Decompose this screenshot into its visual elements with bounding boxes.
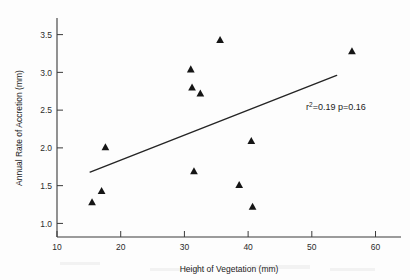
regression-line [90, 75, 337, 172]
data-points [88, 36, 356, 210]
data-point-marker [216, 36, 224, 43]
data-point-marker [187, 65, 195, 72]
scatter-plot-figure: 1.01.52.02.53.03.5 102030405060 r2=0.19 … [0, 0, 410, 280]
x-tick-label: 60 [371, 242, 381, 252]
data-point-marker [247, 137, 255, 144]
y-tick-label: 1.5 [40, 181, 52, 191]
y-tick-label: 2.5 [40, 105, 52, 115]
y-tick-label: 3.5 [40, 30, 52, 40]
axes [57, 18, 401, 237]
y-tick-label: 1.0 [40, 219, 52, 229]
y-tick-label: 2.0 [40, 143, 52, 153]
stats-annotation: r2=0.19 p=0.16 [306, 101, 366, 112]
data-point-marker [348, 47, 356, 54]
data-point-marker [98, 187, 106, 194]
regression-line-segment [90, 75, 337, 172]
data-point-marker [190, 167, 198, 174]
x-axis-ticks: 102030405060 [52, 231, 380, 252]
data-point-marker [188, 83, 196, 90]
y-axis-ticks: 1.01.52.02.53.03.5 [40, 30, 63, 229]
data-point-marker [102, 143, 110, 150]
x-axis-title: Height of Vegetation (mm) [180, 264, 279, 274]
x-tick-label: 10 [52, 242, 62, 252]
data-point-marker [88, 198, 96, 205]
x-tick-label: 40 [243, 242, 253, 252]
data-point-marker [235, 181, 243, 188]
x-tick-label: 30 [180, 242, 190, 252]
y-tick-label: 3.0 [40, 68, 52, 78]
data-point-marker [196, 90, 204, 97]
x-tick-label: 20 [116, 242, 126, 252]
data-point-marker [249, 203, 257, 210]
x-tick-label: 50 [307, 242, 317, 252]
y-axis-title: Annual Rate of Accretion (mm) [14, 70, 24, 186]
plot-canvas: 1.01.52.02.53.03.5 102030405060 r2=0.19 … [0, 0, 410, 280]
